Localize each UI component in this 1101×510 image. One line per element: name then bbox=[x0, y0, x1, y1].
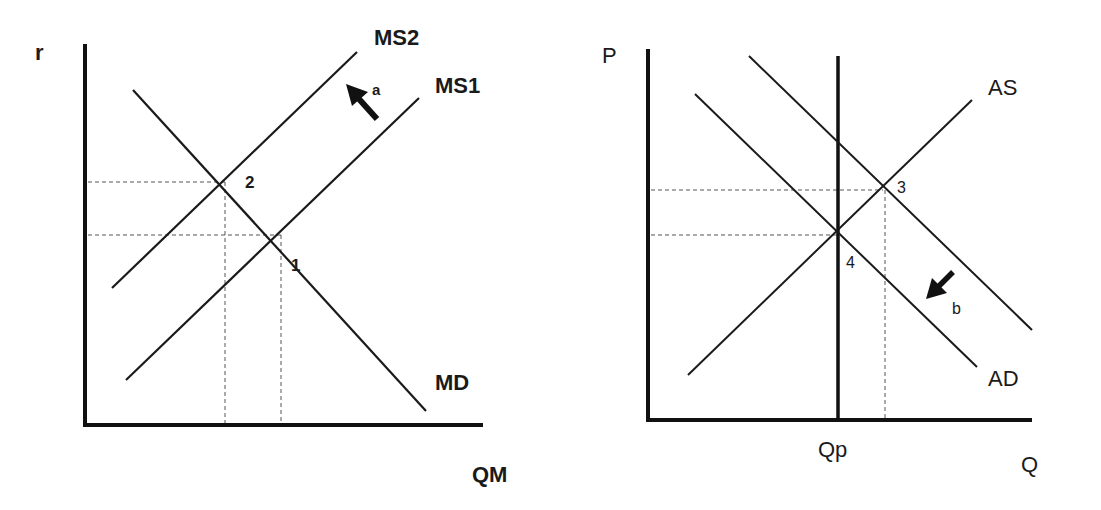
ms2-curve bbox=[112, 52, 357, 288]
as-label: AS bbox=[988, 75, 1017, 100]
ad-as-chart: P AS AD Qp Q 3 4 b bbox=[602, 43, 1038, 477]
md-curve bbox=[133, 90, 426, 411]
as-curve bbox=[688, 100, 972, 375]
shift-arrow-b-icon bbox=[926, 272, 953, 299]
md-label: MD bbox=[435, 370, 469, 395]
ms2-label: MS2 bbox=[374, 25, 419, 50]
guide-lines-right bbox=[651, 190, 885, 418]
ms1-label: MS1 bbox=[435, 73, 480, 98]
x-axis-label-q: Q bbox=[1021, 452, 1038, 477]
point-2-label: 2 bbox=[245, 173, 254, 192]
arrow-b-label: b bbox=[952, 300, 961, 317]
money-market-chart: r MS2 MS1 MD QM 2 1 a bbox=[35, 25, 507, 487]
diagram-canvas: r MS2 MS1 MD QM 2 1 a P AS AD bbox=[0, 0, 1101, 510]
arrow-a-label: a bbox=[372, 81, 381, 98]
point-3-label: 3 bbox=[897, 179, 906, 196]
ad-label: AD bbox=[988, 366, 1019, 391]
point-1-label: 1 bbox=[291, 256, 300, 275]
ms1-curve bbox=[126, 98, 419, 380]
qp-label: Qp bbox=[818, 437, 847, 462]
x-axis-label-qm: QM bbox=[472, 462, 507, 487]
y-axis-label-p: P bbox=[602, 43, 617, 68]
point-4-label: 4 bbox=[846, 254, 855, 271]
y-axis-label-r: r bbox=[35, 40, 44, 65]
